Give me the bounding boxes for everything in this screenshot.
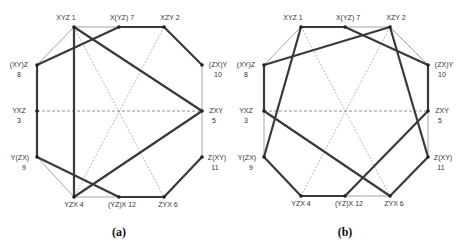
node-number: 9: [249, 164, 253, 171]
node-label: (XY)Z: [10, 61, 29, 69]
node-label: (ZX)Y: [435, 61, 454, 69]
figure-b: XYZ 1X(YZ) 7XZY 2(XY)Z8(ZX)Y10YXZ3ZXY5Y(…: [237, 14, 454, 239]
node-1: [72, 25, 76, 29]
node-12: [117, 195, 121, 199]
node-label: XZY 2: [160, 14, 179, 21]
node-number: 3: [244, 117, 248, 124]
node-8: [262, 63, 266, 67]
node-6: [388, 194, 392, 198]
node-5: [426, 109, 430, 113]
figure-caption: (b): [338, 225, 353, 239]
node-4: [299, 194, 303, 198]
edge-6-11: [164, 157, 202, 197]
node-8: [35, 63, 39, 67]
node-label: X(YZ) 7: [336, 14, 360, 22]
edge-4-5: [74, 111, 202, 197]
edge-11-6: [390, 157, 428, 196]
node-label: Z(XY): [434, 154, 452, 162]
node-3: [35, 109, 39, 113]
node-10: [426, 63, 430, 67]
node-4: [72, 195, 76, 199]
figure-caption: (a): [112, 225, 126, 239]
node-label: (YZ)X 12: [108, 201, 136, 209]
node-number: 5: [438, 117, 442, 124]
node-label: XZY 2: [386, 14, 405, 21]
node-label: YZX 4: [64, 201, 84, 208]
node-5: [200, 109, 204, 113]
edge-3-6: [264, 111, 390, 196]
node-11: [200, 155, 204, 159]
node-number: 10: [214, 71, 222, 78]
node-10: [200, 63, 204, 67]
node-7: [117, 25, 121, 29]
node-label: Z(XY): [208, 154, 226, 162]
node-label: XYZ 1: [283, 14, 303, 21]
node-label: YZX 4: [291, 200, 311, 207]
edge-9-4: [37, 157, 74, 197]
node-number: 11: [211, 164, 218, 171]
edge-1-8: [37, 27, 74, 65]
node-2: [388, 25, 392, 29]
node-number: 9: [22, 164, 26, 171]
node-label: ZXY: [209, 107, 223, 114]
node-7: [343, 25, 347, 29]
node-label: (XY)Z: [237, 61, 256, 69]
node-number: 5: [212, 117, 216, 124]
node-label: Y(ZX): [238, 154, 256, 162]
edge-9-4: [264, 157, 301, 196]
node-number: 8: [17, 71, 21, 78]
graph-diagram: XYZ 1X(YZ) 7XZY 2(XY)Z8(ZX)Y10YXZ3ZXY5Y(…: [0, 0, 466, 244]
node-1: [299, 25, 303, 29]
node-3: [262, 109, 266, 113]
node-9: [262, 155, 266, 159]
node-number: 3: [17, 117, 21, 124]
node-11: [426, 155, 430, 159]
figure-a: XYZ 1X(YZ) 7XZY 2(XY)Z8(ZX)Y10YXZ3ZXY5Y(…: [10, 14, 228, 239]
node-label: ZXY: [435, 107, 449, 114]
node-label: (YZ)X 12: [335, 200, 363, 208]
node-label: XYZ 1: [56, 14, 76, 21]
edge-9-12: [37, 157, 119, 197]
node-6: [162, 195, 166, 199]
node-label: Y(ZX): [11, 154, 29, 162]
edge-2-10: [164, 27, 202, 65]
node-number: 10: [438, 71, 446, 78]
node-label: YXZ: [12, 107, 26, 114]
node-label: YXZ: [239, 107, 253, 114]
node-label: ZYX 6: [384, 200, 404, 207]
node-number: 11: [437, 164, 444, 171]
node-12: [343, 194, 347, 198]
node-label: (ZX)Y: [209, 61, 228, 69]
edge-8-7: [37, 27, 119, 65]
node-label: X(YZ) 7: [110, 14, 134, 22]
node-label: ZYX 6: [158, 201, 178, 208]
node-number: 8: [244, 71, 248, 78]
node-9: [35, 155, 39, 159]
edge-5-12: [345, 111, 428, 196]
edge-7-10: [345, 27, 428, 65]
node-2: [162, 25, 166, 29]
